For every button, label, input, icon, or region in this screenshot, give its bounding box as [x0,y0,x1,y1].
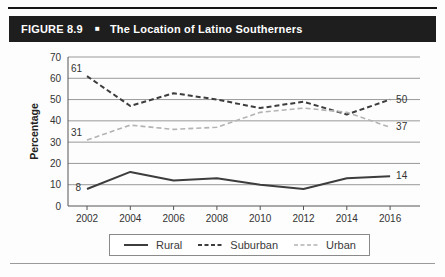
svg-text:0: 0 [55,201,61,212]
svg-text:61: 61 [71,63,83,74]
svg-text:60: 60 [50,73,62,84]
legend-box: Rural Suburban Urban [109,234,370,256]
svg-text:50: 50 [396,94,408,105]
svg-text:31: 31 [71,127,83,138]
legend: Rural Suburban Urban [0,234,445,256]
figure-number: FIGURE 8.9 [21,23,83,35]
suburban-line-sample-icon [197,241,223,249]
svg-text:50: 50 [50,94,62,105]
chart-canvas: 0102030405060702002200420062008201020122… [0,42,445,233]
svg-text:8: 8 [75,182,81,193]
svg-text:40: 40 [50,115,62,126]
top-border-rule [8,7,437,9]
svg-text:2010: 2010 [249,213,272,224]
legend-item-rural: Rural [123,239,182,251]
svg-text:2008: 2008 [206,213,229,224]
svg-text:10: 10 [50,179,62,190]
svg-text:2012: 2012 [292,213,315,224]
svg-text:20: 20 [50,158,62,169]
figure-header: FIGURE 8.9 ■ The Location of Latino Sout… [9,16,436,42]
svg-text:37: 37 [396,121,408,132]
legend-label-rural: Rural [156,239,182,251]
line-chart: 0102030405060702002200420062008201020122… [0,42,445,233]
svg-text:2002: 2002 [76,213,99,224]
figure-title: The Location of Latino Southerners [110,23,303,35]
svg-text:2014: 2014 [336,213,359,224]
legend-item-urban: Urban [293,239,356,251]
bottom-border-rule [10,263,435,264]
rural-line-sample-icon [123,241,149,249]
legend-label-urban: Urban [326,239,356,251]
square-bullet-icon: ■ [95,25,100,33]
legend-label-suburban: Suburban [230,239,278,251]
svg-text:Percentage: Percentage [28,103,40,160]
svg-text:2004: 2004 [119,213,142,224]
svg-text:2016: 2016 [379,213,402,224]
svg-text:70: 70 [50,52,62,63]
legend-item-suburban: Suburban [197,239,278,251]
svg-text:14: 14 [396,170,408,181]
svg-text:2006: 2006 [162,213,185,224]
svg-text:30: 30 [50,137,62,148]
urban-line-sample-icon [293,241,319,249]
